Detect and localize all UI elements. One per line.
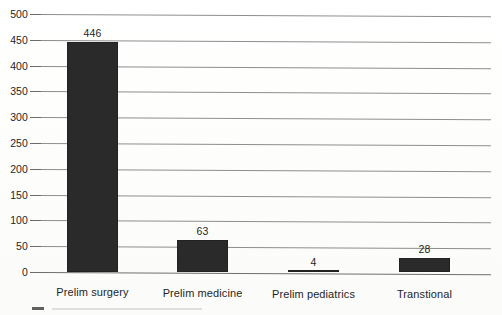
y-tick-label-100: 100 xyxy=(0,215,28,226)
y-tick-350 xyxy=(30,91,41,92)
y-tick-label-400: 400 xyxy=(0,61,28,72)
y-tick-label-450: 450 xyxy=(0,35,28,46)
x-tick-label-prelim-surgery: Prelim surgery xyxy=(32,286,153,298)
y-tick-label-50: 50 xyxy=(0,241,28,252)
gridline-500 xyxy=(41,14,491,17)
y-tick-label-0: 0 xyxy=(0,267,28,278)
caption-remnant-mark xyxy=(32,307,44,310)
y-tick-50 xyxy=(30,246,41,247)
y-tick-200 xyxy=(30,169,41,170)
y-tick-label-250: 250 xyxy=(0,138,28,149)
y-tick-label-200: 200 xyxy=(0,164,28,175)
gridline-0-baseline xyxy=(41,272,491,276)
y-tick-150 xyxy=(30,195,41,196)
bar-prelim-medicine[interactable] xyxy=(177,240,228,273)
bar-value-prelim-surgery: 446 xyxy=(62,28,123,39)
y-tick-0 xyxy=(30,272,41,273)
bar-prelim-surgery[interactable] xyxy=(67,42,118,272)
y-tick-label-300: 300 xyxy=(0,112,28,123)
x-tick-label-prelim-medicine: Prelim medicine xyxy=(142,287,263,299)
y-tick-label-150: 150 xyxy=(0,190,28,201)
y-tick-400 xyxy=(30,66,41,67)
y-tick-450 xyxy=(30,40,41,41)
y-tick-500 xyxy=(30,14,41,15)
y-tick-250 xyxy=(30,143,41,144)
y-tick-label-350: 350 xyxy=(0,86,28,97)
x-tick-label-transtional: Transtional xyxy=(364,288,485,300)
bar-transtional[interactable] xyxy=(399,258,450,272)
bar-value-transtional: 28 xyxy=(394,244,455,255)
y-tick-300 xyxy=(30,117,41,118)
y-tick-label-500: 500 xyxy=(0,9,28,20)
bar-prelim-pediatrics[interactable] xyxy=(288,270,339,273)
bar-value-prelim-pediatrics: 4 xyxy=(283,257,344,268)
bar-chart-figure: 500 450 400 350 300 250 200 xyxy=(0,0,502,315)
plot-area: 500 450 400 350 300 250 200 xyxy=(0,0,502,315)
bar-value-prelim-medicine: 63 xyxy=(172,226,233,237)
y-tick-100 xyxy=(30,220,41,221)
caption-remnant-line xyxy=(52,308,202,310)
x-tick-label-prelim-pediatrics: Prelim pediatrics xyxy=(253,288,374,300)
